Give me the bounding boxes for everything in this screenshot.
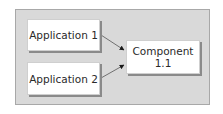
application-2-label: Application 2	[29, 73, 98, 85]
component-label-line1: Component	[133, 45, 194, 57]
component-label-line2: 1.1	[155, 57, 172, 69]
application-1-node: Application 1	[27, 19, 100, 51]
application-2-node: Application 2	[27, 62, 100, 95]
component-node: Component 1.1	[126, 40, 200, 74]
application-1-label: Application 1	[29, 29, 98, 41]
